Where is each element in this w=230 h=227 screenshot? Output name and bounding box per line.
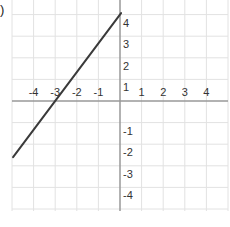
axes (12, 0, 228, 211)
x-tick-label: 3 (182, 86, 188, 98)
y-tick-label: 2 (123, 60, 129, 72)
x-tick-label: 1 (139, 86, 145, 98)
x-tick-label: -4 (29, 86, 39, 98)
x-tick-label: 2 (160, 86, 166, 98)
x-tick-label: -1 (94, 86, 104, 98)
y-tick-label: -2 (123, 146, 133, 158)
tick-labels: -4-3-2-112344321-1-2-3-4 (29, 17, 210, 202)
y-tick-label: -4 (123, 189, 133, 201)
y-tick-label: -1 (123, 125, 133, 137)
x-tick-label: 4 (203, 86, 209, 98)
coordinate-plane: -4-3-2-112344321-1-2-3-4 (0, 0, 230, 227)
y-tick-label: 4 (123, 17, 129, 29)
y-tick-label: 3 (123, 38, 129, 50)
x-tick-label: -2 (72, 86, 82, 98)
y-tick-label: -3 (123, 168, 133, 180)
y-tick-label: 1 (123, 81, 129, 93)
